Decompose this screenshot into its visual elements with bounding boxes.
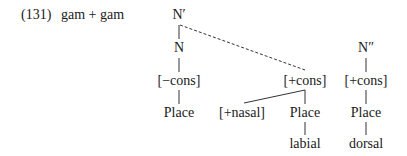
edge-cons-nasal bbox=[244, 90, 305, 103]
edge-dashed-association bbox=[180, 25, 305, 70]
tree-lines bbox=[0, 0, 407, 156]
